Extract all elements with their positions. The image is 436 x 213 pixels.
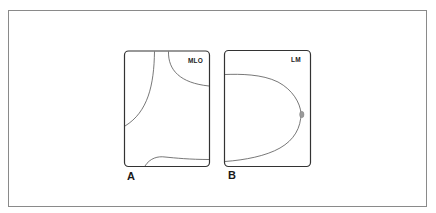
view-label-lm: LM [291,57,301,64]
mammography-diagram [0,0,436,213]
panel-a-mlo [125,51,210,167]
panel-a-border [125,51,210,167]
panel-caption-a: A [127,171,135,182]
panel-b-border [225,51,311,167]
view-label-mlo: MLO [188,58,203,65]
panel-caption-b: B [228,170,236,181]
nipple-marker [300,111,304,117]
panel-b-lm [225,51,311,167]
